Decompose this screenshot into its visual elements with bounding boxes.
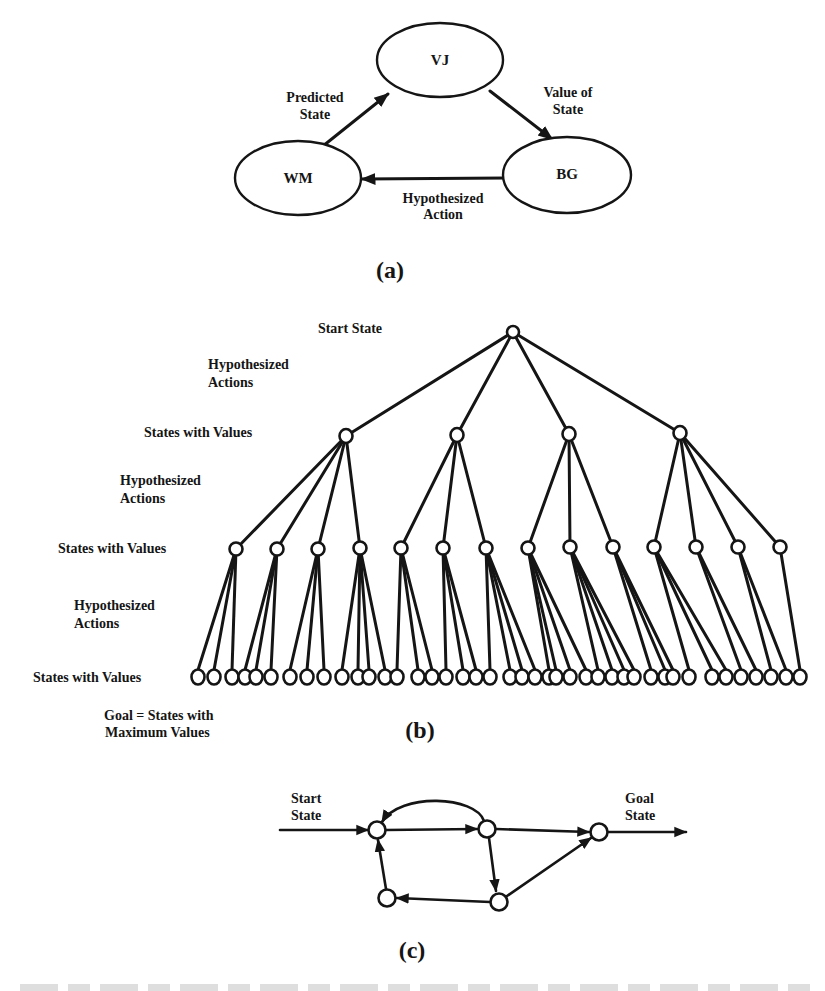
label-hyp-actions-1b: Actions xyxy=(208,375,254,390)
leaf-state-node xyxy=(706,670,719,685)
leaf-state-node xyxy=(250,670,263,685)
leaf-state-node xyxy=(564,670,577,685)
leaf-state-node xyxy=(667,670,680,685)
label-hyp-actions-2b: Actions xyxy=(120,491,166,506)
action-edge xyxy=(346,436,360,548)
state-node-start xyxy=(369,822,386,839)
leaf-state-node xyxy=(208,670,221,685)
state-node xyxy=(522,542,535,555)
leaf-state-node xyxy=(529,670,542,685)
label-c-start-1: Start xyxy=(291,791,322,806)
leaf-state-node xyxy=(336,670,349,685)
action-edge xyxy=(397,548,401,670)
leaf-state-node xyxy=(192,670,205,685)
leaf-state-node xyxy=(226,670,239,685)
edge-label-state-2: State xyxy=(553,102,583,117)
state-node xyxy=(563,427,576,441)
leaf-state-node xyxy=(628,670,641,685)
caption-a: (a) xyxy=(376,257,404,283)
leaf-state-node xyxy=(301,670,314,685)
leaf-state-node xyxy=(592,670,605,685)
label-hyp-actions-3a: Hypothesized xyxy=(74,598,155,613)
figure-b: Start State Hypothesized Actions States … xyxy=(33,321,807,743)
leaf-state-node xyxy=(750,670,763,685)
tree-edges xyxy=(198,332,800,670)
leaf-state-node xyxy=(683,670,696,685)
action-edge xyxy=(358,548,360,670)
leaf-state-node xyxy=(780,670,793,685)
state-node xyxy=(354,542,367,555)
action-edge xyxy=(486,548,535,670)
label-states-values-2: States with Values xyxy=(58,541,167,556)
action-edge xyxy=(569,434,570,547)
figure-canvas: VJ WM BG Predicted State Value of State … xyxy=(0,0,825,991)
label-hyp-actions-1a: Hypothesized xyxy=(208,357,289,372)
label-c-start-2: State xyxy=(291,808,321,823)
action-edge xyxy=(569,434,613,547)
action-edge xyxy=(318,436,346,549)
leaf-state-node xyxy=(318,670,331,685)
node-bg-label: BG xyxy=(556,166,578,182)
figure-c: Start State Goal State (c) xyxy=(280,791,686,963)
action-edge xyxy=(486,548,522,670)
leaf-state-node xyxy=(457,670,470,685)
leaf-state-node xyxy=(645,670,658,685)
action-edge xyxy=(318,549,324,670)
leaf-state-node xyxy=(440,670,453,685)
label-goal-1: Goal = States with xyxy=(104,708,214,723)
action-edge xyxy=(570,547,598,670)
edge-label-hypothesized: Hypothesized xyxy=(403,191,484,206)
tree-nodes xyxy=(192,326,807,685)
action-edge xyxy=(570,547,634,670)
caption-c: (c) xyxy=(399,937,426,963)
state-node xyxy=(395,542,408,555)
arrow-c-to-a xyxy=(378,840,386,889)
action-edge xyxy=(613,547,651,670)
action-edge xyxy=(738,547,771,670)
edge-label-value-of: Value of xyxy=(544,85,593,100)
edge-label-predicted: Predicted xyxy=(286,90,343,105)
leaf-state-node xyxy=(363,670,376,685)
state-node-goal xyxy=(591,824,608,841)
action-edge xyxy=(513,332,680,433)
label-c-goal-2: State xyxy=(625,808,655,823)
leaf-state-node xyxy=(794,670,807,685)
label-start-state: Start State xyxy=(318,321,382,336)
action-edge xyxy=(696,547,756,670)
action-edge xyxy=(457,435,486,548)
node-vj-label: VJ xyxy=(431,52,450,68)
arrow-d-to-c xyxy=(397,898,490,902)
action-edge xyxy=(738,547,786,670)
arrow-b-to-goal xyxy=(496,829,589,832)
action-edge xyxy=(236,436,346,549)
arrow-d-to-goal xyxy=(507,838,591,896)
label-c-goal-1: Goal xyxy=(625,791,654,806)
edge-label-state: State xyxy=(300,107,330,122)
leaf-state-node xyxy=(735,670,748,685)
action-edge xyxy=(528,548,570,670)
leaf-state-node xyxy=(765,670,778,685)
clipped-caption-text xyxy=(20,984,810,991)
figure-a: VJ WM BG Predicted State Value of State … xyxy=(235,23,631,283)
arrow-bg-to-wm xyxy=(362,178,506,179)
leaf-state-node xyxy=(516,670,529,685)
label-states-values-3: States with Values xyxy=(33,670,142,685)
state-node xyxy=(732,541,745,554)
arrow-b-to-d xyxy=(489,838,496,891)
state-node xyxy=(437,542,450,555)
state-node-d xyxy=(491,894,508,911)
label-hyp-actions-2a: Hypothesized xyxy=(120,473,201,488)
label-hyp-actions-3b: Actions xyxy=(74,616,120,631)
state-node xyxy=(690,541,703,554)
state-node xyxy=(564,541,577,554)
leaf-state-node xyxy=(720,670,733,685)
leaf-state-node xyxy=(412,670,425,685)
leaf-state-node xyxy=(470,670,483,685)
state-node-b xyxy=(479,821,496,838)
action-edge xyxy=(780,547,800,670)
action-edge xyxy=(654,433,680,547)
action-edge xyxy=(528,548,556,670)
state-node-c xyxy=(379,890,396,907)
state-node xyxy=(271,543,284,556)
state-node xyxy=(340,429,353,443)
